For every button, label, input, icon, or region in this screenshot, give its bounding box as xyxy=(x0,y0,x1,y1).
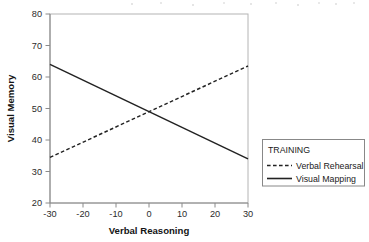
y-tick-label-60: 60 xyxy=(32,72,42,82)
y-tick-label-40: 40 xyxy=(32,135,42,145)
legend-title: TRAINING xyxy=(268,145,310,155)
line-chart-svg: 80 70 60 50 40 30 20 -30 -20 -10 0 10 20… xyxy=(0,0,369,242)
y-tick-label-30: 30 xyxy=(32,167,42,177)
series-line-verbal-rehearsal xyxy=(50,66,248,157)
x-tick-label-neg10: -10 xyxy=(109,209,122,219)
y-tick-label-80: 80 xyxy=(32,9,42,19)
x-tick-label-neg30: -30 xyxy=(43,209,56,219)
plot-area-frame xyxy=(50,14,248,203)
y-tick-label-70: 70 xyxy=(32,41,42,51)
y-tick-marks xyxy=(46,14,51,203)
chart-figure: 80 70 60 50 40 30 20 -30 -20 -10 0 10 20… xyxy=(0,0,369,242)
x-tick-label-neg20: -20 xyxy=(76,209,89,219)
x-axis-title: Verbal Reasoning xyxy=(109,225,190,236)
legend-label-visual-mapping: Visual Mapping xyxy=(296,174,356,184)
y-tick-label-50: 50 xyxy=(32,104,42,114)
x-tick-marks xyxy=(50,203,248,208)
x-tick-label-20: 20 xyxy=(210,209,220,219)
legend: TRAINING Verbal Rehearsal Visual Mapping xyxy=(263,140,365,187)
legend-label-verbal-rehearsal: Verbal Rehearsal xyxy=(296,161,364,171)
y-tick-label-20: 20 xyxy=(32,198,42,208)
x-tick-label-30: 30 xyxy=(243,209,253,219)
x-tick-label-0: 0 xyxy=(146,209,151,219)
x-tick-label-10: 10 xyxy=(177,209,187,219)
y-axis-title: Visual Memory xyxy=(5,74,16,142)
